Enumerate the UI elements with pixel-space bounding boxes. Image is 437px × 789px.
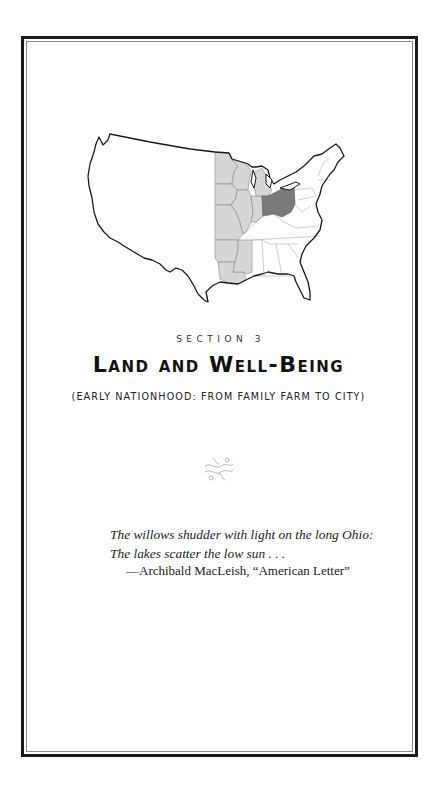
epigraph-line: The willows shudder with light on the lo… <box>110 525 410 544</box>
section-label: SECTION 3 <box>0 334 437 344</box>
epigraph-line: The lakes scatter the low sun . . . <box>110 544 410 563</box>
page-title: Land and Well-Being <box>0 352 437 377</box>
us-map-illustration <box>80 128 370 308</box>
decorative-flourish-icon <box>201 452 237 486</box>
page-subtitle: (EARLY NATIONHOOD: FROM FAMILY FARM TO C… <box>0 391 437 402</box>
epigraph-attribution: —Archibald MacLeish, “American Letter” <box>126 563 350 579</box>
epigraph: The willows shudder with light on the lo… <box>110 525 410 563</box>
